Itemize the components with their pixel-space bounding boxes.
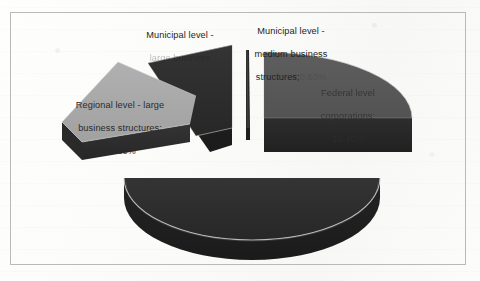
slice-label-municipal-large: Municipal level - large business bbox=[122, 18, 238, 64]
slice-label-municipal-large-line2: large business bbox=[150, 53, 211, 65]
slice-label-regional: Regional level - large business structur… bbox=[58, 88, 182, 169]
slice-label-regional-line2: business structures; bbox=[58, 123, 182, 135]
slice-label-regional-line1: Regional level - large bbox=[58, 100, 182, 112]
slice-label-federal-line1: Federal level bbox=[296, 88, 400, 100]
slice-label-municipal-large-line1: Municipal level - bbox=[122, 30, 238, 42]
slice-label-federal-line2: corporations; bbox=[296, 111, 400, 123]
slice-municipal-large[interactable] bbox=[124, 178, 380, 260]
slice-label-regional-value: 18.60% bbox=[58, 146, 182, 158]
slice-label-municipal-medium-line2: medium business bbox=[238, 49, 344, 61]
slice-label-federal: Federal level corporations; 26.40% bbox=[296, 76, 400, 157]
slice-label-municipal-medium-text: structures; bbox=[256, 72, 300, 82]
slice-label-municipal-medium-line1: Municipal level - bbox=[238, 26, 344, 38]
slice-label-federal-value: 26.40% bbox=[296, 134, 400, 146]
pie-chart-figure: Municipal level - large business Municip… bbox=[0, 0, 480, 281]
